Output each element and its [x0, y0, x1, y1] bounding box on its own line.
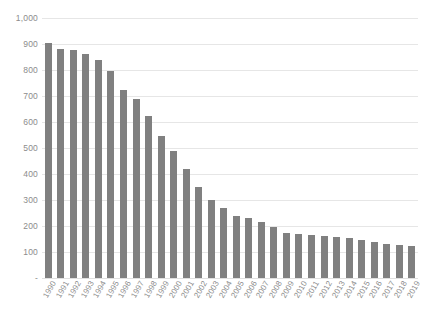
bar: [195, 187, 202, 278]
y-axis-label: 600: [0, 118, 38, 127]
bar: [57, 49, 64, 278]
bar: [70, 50, 77, 278]
bar: [133, 99, 140, 278]
bar: [95, 60, 102, 278]
bar: [82, 54, 89, 278]
y-axis-label: 700: [0, 92, 38, 101]
bar: [371, 242, 378, 278]
y-axis-label: 500: [0, 144, 38, 153]
bar: [158, 136, 165, 278]
bar-chart: -1002003004005006007008009001,000 199019…: [0, 0, 430, 313]
bar: [233, 216, 240, 278]
bar: [346, 238, 353, 278]
bar: [208, 200, 215, 278]
bar: [321, 236, 328, 278]
bar: [107, 71, 114, 278]
bar: [270, 227, 277, 278]
y-axis-label: 800: [0, 66, 38, 75]
bar: [308, 235, 315, 278]
bar: [408, 246, 415, 279]
bar: [145, 116, 152, 279]
plot-area: [42, 18, 418, 278]
y-axis: -1002003004005006007008009001,000: [0, 0, 38, 313]
bar: [333, 237, 340, 278]
y-axis-label: 200: [0, 222, 38, 231]
bar: [258, 222, 265, 278]
bar: [245, 218, 252, 278]
y-axis-label: 300: [0, 196, 38, 205]
y-axis-label: 100: [0, 248, 38, 257]
bar: [183, 169, 190, 278]
bar: [283, 233, 290, 278]
bar-series: [42, 18, 418, 278]
bar: [383, 244, 390, 278]
bar: [120, 90, 127, 279]
y-axis-label: 400: [0, 170, 38, 179]
bar: [295, 234, 302, 278]
y-axis-label: 900: [0, 40, 38, 49]
gridline-0: [42, 278, 418, 279]
bar: [170, 151, 177, 278]
y-axis-label: 1,000: [0, 14, 38, 23]
bar: [358, 240, 365, 278]
bar: [396, 245, 403, 278]
x-axis: 1990199119921993199419951996199719981999…: [42, 280, 418, 313]
bar: [45, 43, 52, 278]
y-axis-label: -: [0, 274, 38, 283]
bar: [220, 208, 227, 278]
